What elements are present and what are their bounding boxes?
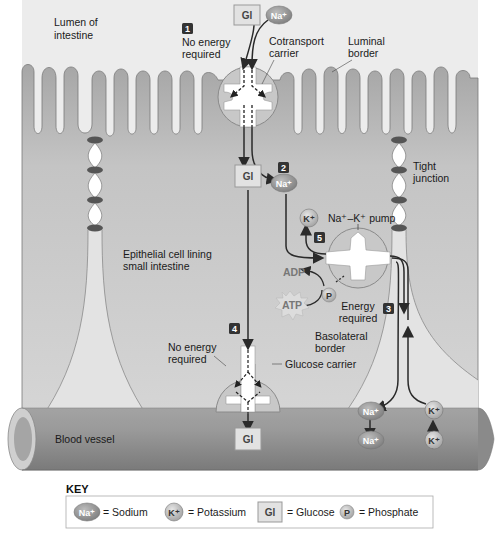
phosphate-icon: P: [322, 288, 336, 302]
svg-text:= Sodium: = Sodium: [103, 506, 148, 518]
energy-required-line2: required: [339, 312, 378, 324]
potassium-ion-interstitial: K⁺: [425, 401, 443, 419]
svg-text:P: P: [326, 291, 332, 301]
epithelial-label-line1: Epithelial cell lining: [123, 248, 212, 260]
step-badge-1: 1: [182, 23, 193, 34]
glucose-box-blood: Gl: [235, 428, 261, 450]
cotransport-label-line2: carrier: [269, 47, 299, 59]
pump-label: Na⁺–K⁺ pump: [328, 212, 396, 224]
sodium-ion-blood: Na⁺: [358, 431, 384, 449]
glucose-carrier-label: Glucose carrier: [285, 358, 357, 370]
epithelial-label-line2: small intestine: [123, 260, 190, 272]
svg-text:Na⁺: Na⁺: [363, 436, 380, 446]
sodium-ion-lumen: Na⁺: [266, 6, 292, 24]
svg-text:Na⁺: Na⁺: [276, 179, 293, 189]
svg-text:2: 2: [281, 163, 286, 173]
sodium-ion-cell: Na⁺: [271, 174, 297, 192]
tight-junction-label-line2: junction: [412, 172, 449, 184]
svg-text:K⁺: K⁺: [428, 436, 440, 446]
potassium-ion-blood: K⁺: [425, 431, 443, 449]
svg-text:= Potassium: = Potassium: [188, 506, 246, 518]
lumen-label-line2: intestine: [54, 29, 93, 41]
cotransport-label-line1: Cotransport: [269, 35, 324, 47]
svg-text:1: 1: [185, 24, 190, 34]
svg-text:3: 3: [386, 304, 391, 314]
glucose-box-cell: Gl: [235, 165, 261, 187]
luminal-label-line2: border: [348, 47, 379, 59]
atp-label: ATP: [282, 299, 302, 311]
adp-label: ADP: [283, 266, 305, 278]
svg-text:= Phosphate: = Phosphate: [359, 506, 418, 518]
potassium-ion-cell: K⁺: [300, 209, 318, 227]
svg-text:K⁺: K⁺: [428, 406, 440, 416]
svg-text:Gl: Gl: [243, 434, 254, 445]
svg-text:P: P: [344, 508, 350, 518]
tight-junction-label-line1: Tight: [413, 160, 436, 172]
step1-label-line2: required: [182, 48, 221, 60]
basolateral-label-line1: Basolateral: [315, 330, 368, 342]
intestinal-absorption-diagram: ATP ADP P Gl Gl Gl Na⁺ Na⁺ Na⁺ Na⁺ K⁺: [0, 0, 502, 540]
svg-text:Na⁺: Na⁺: [363, 407, 380, 417]
svg-text:Gl: Gl: [242, 10, 253, 21]
energy-required-line1: Energy: [341, 300, 375, 312]
step-badge-3: 3: [383, 303, 394, 314]
svg-text:K⁺: K⁺: [303, 214, 315, 224]
tight-junction-left: [87, 137, 103, 232]
luminal-label-line1: Luminal: [348, 35, 385, 47]
cotransport-carrier: [218, 67, 278, 128]
svg-text:Na⁺: Na⁺: [271, 11, 288, 21]
legend-item-phosphate: P = Phosphate: [340, 505, 418, 519]
svg-text:Gl: Gl: [243, 171, 254, 182]
basolateral-label-line2: border: [315, 342, 346, 354]
lumen-label-line1: Lumen of: [54, 16, 98, 28]
step4-label-line2: required: [168, 353, 207, 365]
svg-text:= Glucose: = Glucose: [287, 506, 335, 518]
svg-text:K⁺: K⁺: [168, 508, 180, 518]
glucose-box-lumen: Gl: [234, 5, 260, 25]
sodium-ion-interstitial: Na⁺: [358, 402, 384, 420]
svg-text:Na⁺: Na⁺: [79, 508, 96, 518]
step4-label-line1: No energy: [168, 341, 217, 353]
svg-text:4: 4: [232, 324, 237, 334]
svg-text:Gl: Gl: [265, 507, 276, 518]
legend-title: KEY: [66, 483, 89, 495]
step-badge-4: 4: [229, 323, 240, 334]
step-badge-5: 5: [314, 232, 325, 243]
step1-label-line1: No energy: [182, 36, 231, 48]
svg-text:5: 5: [317, 233, 322, 243]
step-badge-2: 2: [278, 162, 289, 173]
blood-vessel-label: Blood vessel: [55, 433, 115, 445]
